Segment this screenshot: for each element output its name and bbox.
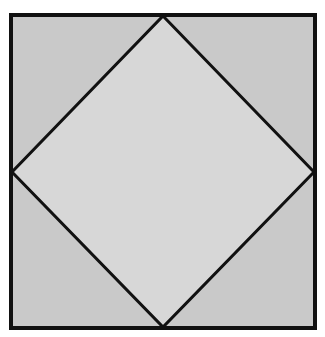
square-diamond-diagram [0,0,325,337]
